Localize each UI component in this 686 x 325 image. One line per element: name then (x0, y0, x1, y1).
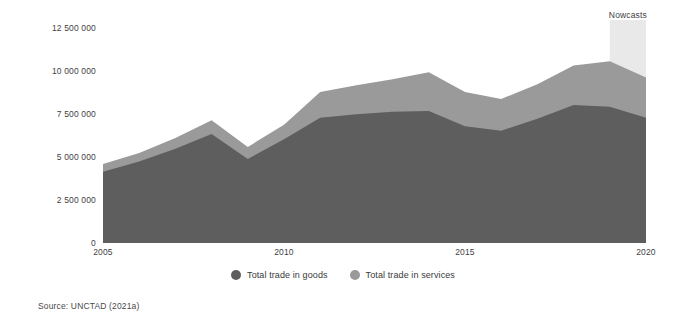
stacked-area-chart (103, 20, 646, 243)
plot-area (103, 20, 646, 243)
chart-figure: 02 500 0005 000 0007 500 00010 000 00012… (0, 0, 686, 325)
legend-item-goods[interactable]: Total trade in goods (231, 270, 328, 280)
y-tick-label: 12 500 000 (52, 24, 96, 33)
legend-label-services: Total trade in services (366, 270, 455, 280)
y-tick-label: 10 000 000 (52, 67, 96, 76)
x-axis: 2005201020152020 (0, 247, 686, 261)
legend-label-goods: Total trade in goods (247, 270, 328, 280)
y-tick-label: 2 500 000 (57, 196, 96, 205)
x-tick-label: 2010 (274, 247, 294, 257)
y-axis: 02 500 0005 000 0007 500 00010 000 00012… (0, 20, 96, 250)
chart-legend: Total trade in goods Total trade in serv… (0, 270, 686, 280)
area-total-trade-in-goods (103, 105, 646, 243)
legend-item-services[interactable]: Total trade in services (350, 270, 455, 280)
y-tick-label: 5 000 000 (57, 153, 96, 162)
source-note: Source: UNCTAD (2021a) (38, 301, 139, 311)
legend-swatch-services (350, 270, 360, 280)
x-tick-label: 2015 (455, 247, 475, 257)
legend-swatch-goods (231, 270, 241, 280)
y-tick-label: 7 500 000 (57, 110, 96, 119)
nowcast-label: Nowcasts (609, 10, 647, 20)
x-tick-label: 2005 (93, 247, 113, 257)
x-tick-label: 2020 (636, 247, 656, 257)
